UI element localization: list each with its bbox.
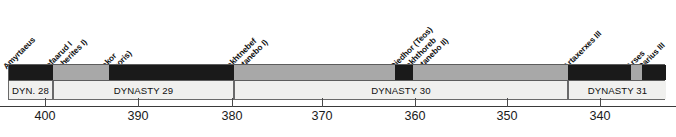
axis-tick-label: 340 xyxy=(589,109,610,123)
dynasty-label: DYNASTY 30 xyxy=(371,85,430,96)
axis-tick xyxy=(600,98,601,107)
axis-tick-label: 400 xyxy=(34,109,55,123)
axis-tick xyxy=(507,98,508,107)
reign-bar xyxy=(8,64,665,81)
dynasty-band: DYN. 28DYNASTY 29DYNASTY 30DYNASTY 31 xyxy=(8,81,665,100)
reign-segment xyxy=(53,65,109,80)
axis-tick xyxy=(232,98,233,107)
dynasty-label: DYN. 28 xyxy=(12,85,49,96)
dynasty-box: DYNASTY 31 xyxy=(568,81,666,99)
reign-segment xyxy=(413,65,568,80)
axis-tick xyxy=(138,98,139,107)
dynasty-label: DYNASTY 29 xyxy=(114,85,173,96)
axis-tick-label: 350 xyxy=(496,109,517,123)
reign-segment xyxy=(109,65,234,80)
axis-tick-label: 390 xyxy=(127,109,148,123)
reign-segment xyxy=(234,65,395,80)
reign-segment xyxy=(568,65,631,80)
axis-tick-label: 370 xyxy=(311,109,332,123)
axis-tick xyxy=(322,98,323,107)
axis-line xyxy=(0,106,676,107)
dynasty-box: DYN. 28 xyxy=(9,81,53,99)
reign-segment xyxy=(642,65,666,80)
dynasty-box: DYNASTY 30 xyxy=(234,81,568,99)
chronology-timeline-figure: AmyrtaeusNefaarud I(Nepherites I)Hakor(A… xyxy=(0,0,676,137)
axis-tick-label: 380 xyxy=(221,109,242,123)
axis-tick-label: 360 xyxy=(404,109,425,123)
dynasty-box: DYNASTY 29 xyxy=(53,81,234,99)
dynasty-label: DYNASTY 31 xyxy=(588,85,647,96)
axis-tick xyxy=(45,98,46,107)
reign-segment xyxy=(631,65,642,80)
reign-segment xyxy=(9,65,53,80)
axis-tick xyxy=(415,98,416,107)
reign-segment xyxy=(395,65,413,80)
